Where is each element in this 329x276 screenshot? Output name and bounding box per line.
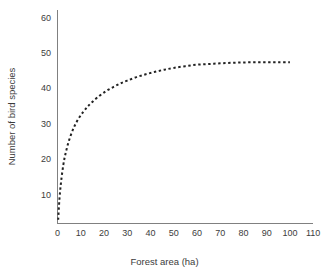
y-tick-label: 60	[33, 14, 51, 23]
x-tick-label: 110	[302, 229, 324, 238]
x-tick-label: 90	[256, 229, 278, 238]
x-tick-label: 10	[70, 229, 92, 238]
y-tick-label: 50	[33, 49, 51, 58]
x-tick-label: 70	[209, 229, 231, 238]
y-axis-title: Number of bird species	[7, 67, 18, 165]
x-tick-label: 20	[93, 229, 115, 238]
x-tick-label: 50	[163, 229, 185, 238]
y-axis-title-wrapper: Number of bird species	[0, 0, 24, 232]
x-tick-label: 0	[47, 229, 69, 238]
y-tick-label: 10	[33, 191, 51, 200]
chart-figure: Number of bird species Forest area (ha) …	[0, 0, 329, 276]
x-tick-label: 60	[186, 229, 208, 238]
y-tick-label: 40	[33, 84, 51, 93]
x-axis-title: Forest area (ha)	[0, 256, 329, 267]
x-tick-label: 80	[232, 229, 254, 238]
x-tick-label: 100	[279, 229, 301, 238]
y-tick-label: 30	[33, 120, 51, 129]
x-tick-label: 30	[116, 229, 138, 238]
x-tick-label: 40	[139, 229, 161, 238]
y-tick-label: 20	[33, 155, 51, 164]
